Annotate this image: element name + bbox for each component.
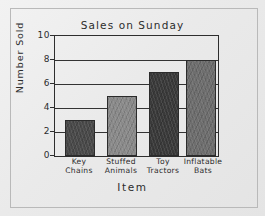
bar-texture bbox=[108, 97, 136, 155]
bar-key-chains[interactable] bbox=[65, 120, 95, 156]
y-tick-label-10: 10 bbox=[24, 31, 50, 40]
bar-texture bbox=[187, 61, 215, 155]
bar-texture bbox=[66, 121, 94, 155]
y-tick-label-2: 2 bbox=[24, 127, 50, 136]
chart-paper-background: Sales on Sunday 10 8 6 4 2 0 Number Sold… bbox=[0, 0, 265, 216]
y-tick-label-6: 6 bbox=[24, 79, 50, 88]
x-axis-tick-labels: Key Chains Stuffed Animals Toy Tractors … bbox=[54, 157, 217, 181]
bar-stuffed-animals[interactable] bbox=[107, 96, 137, 156]
y-tick-label-8: 8 bbox=[24, 55, 50, 64]
bar-inflatable-bats[interactable] bbox=[186, 60, 216, 156]
bar-texture bbox=[150, 73, 178, 155]
plot-area bbox=[54, 35, 219, 157]
y-axis-title: Number Sold bbox=[14, 3, 25, 113]
y-axis-tick-labels: 10 8 6 4 2 0 bbox=[20, 35, 50, 155]
y-tick-label-4: 4 bbox=[24, 103, 50, 112]
bar-toy-tractors[interactable] bbox=[149, 72, 179, 156]
x-tick-line-1: Inflatable bbox=[170, 157, 236, 166]
y-tick-label-0: 0 bbox=[24, 151, 50, 160]
x-axis-title: Item bbox=[0, 181, 265, 193]
x-tick-label-inflatable-bats: Inflatable Bats bbox=[170, 157, 236, 175]
x-tick-line-2: Bats bbox=[170, 166, 236, 175]
